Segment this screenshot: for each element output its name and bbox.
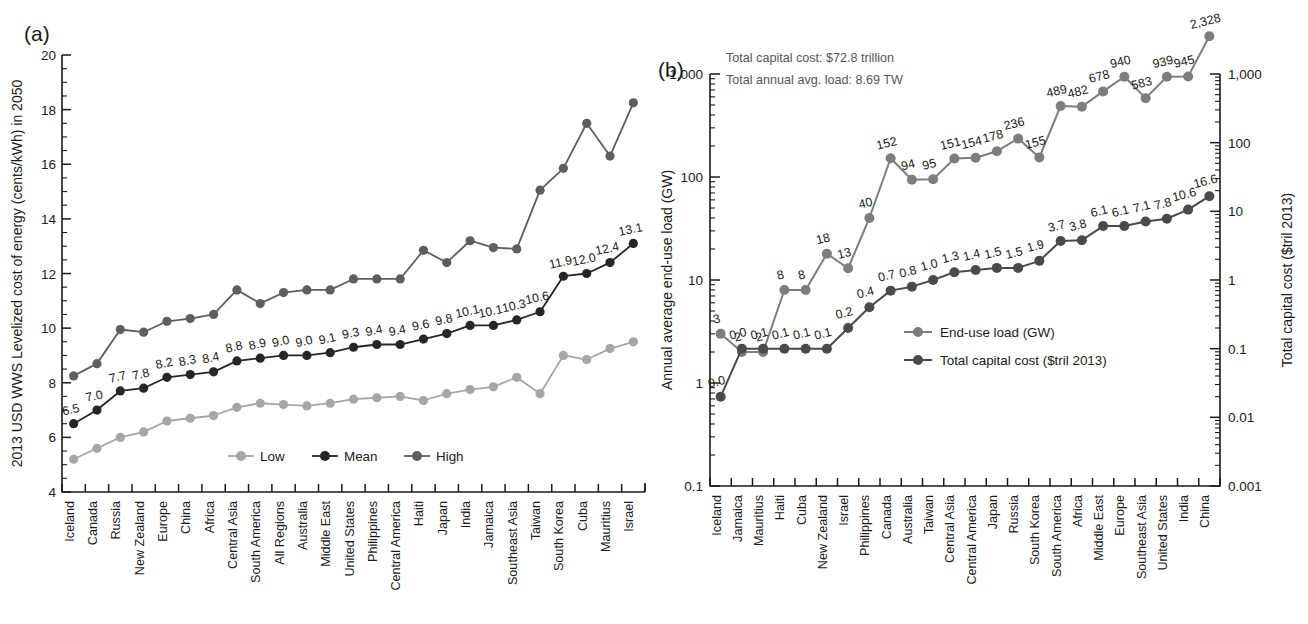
panel-b-tag: (b) <box>658 58 684 82</box>
data-point <box>232 356 241 365</box>
data-point <box>69 455 78 464</box>
y-tick-label-a: 16 <box>41 157 56 172</box>
data-point <box>605 151 614 160</box>
svg-text:High: High <box>436 449 464 464</box>
data-point <box>1013 134 1023 144</box>
panel-a-tag: (a) <box>24 22 50 46</box>
y-tick-label-b-right: 100 <box>1228 136 1251 151</box>
data-point <box>1204 191 1214 201</box>
data-point <box>186 414 195 423</box>
data-point <box>279 288 288 297</box>
svg-text:End-use load (GW): End-use load (GW) <box>940 325 1055 340</box>
data-point <box>1119 221 1129 231</box>
data-label-b: 678 <box>1087 67 1111 86</box>
data-point <box>256 354 265 363</box>
data-point <box>466 385 475 394</box>
data-label-b: 1.5 <box>983 244 1003 262</box>
data-label-a: 10.1 <box>454 302 481 321</box>
data-point <box>92 405 101 414</box>
panel-b: (b) 0.11101001,0000.0010.010.11101001,00… <box>654 0 1308 624</box>
x-category-label-a: Iceland <box>63 501 77 542</box>
data-point <box>1098 221 1108 231</box>
data-point <box>162 317 171 326</box>
x-category-label-b: India <box>1177 495 1191 522</box>
y-axis-title-b-right: Total capital cost ($tril 2013) <box>1279 193 1295 367</box>
y-tick-label-b-left: 1 <box>695 376 703 391</box>
data-point <box>162 373 171 382</box>
data-point <box>886 286 896 296</box>
data-point <box>907 282 917 292</box>
data-label-a: 8.9 <box>248 336 268 353</box>
data-point <box>349 343 358 352</box>
data-point <box>256 299 265 308</box>
annotation-b: Total capital cost: $72.8 trillion <box>726 51 894 65</box>
data-point <box>629 98 638 107</box>
data-point <box>186 370 195 379</box>
y-tick-label-a: 8 <box>48 376 56 391</box>
data-point <box>716 329 726 339</box>
data-label-b: 0.2 <box>834 304 854 322</box>
data-label-a: 9.6 <box>411 316 431 333</box>
data-point <box>419 334 428 343</box>
y-tick-label-b-left: 100 <box>680 170 703 185</box>
x-category-label-b: Africa <box>1071 495 1085 527</box>
data-point <box>928 275 938 285</box>
data-label-a: 9.0 <box>271 333 291 350</box>
data-label-b: 1.3 <box>940 248 960 266</box>
data-point <box>864 302 874 312</box>
data-point <box>1141 93 1151 103</box>
data-point <box>209 367 218 376</box>
y-tick-label-b-right: 0.1 <box>1228 342 1247 357</box>
data-point <box>992 146 1002 156</box>
data-point <box>1034 256 1044 266</box>
data-point <box>629 239 638 248</box>
data-point <box>69 371 78 380</box>
data-point <box>92 359 101 368</box>
data-point <box>139 328 148 337</box>
annotation-b: Total annual avg. load: 8.69 TW <box>726 73 903 87</box>
y-tick-label-a: 4 <box>48 485 56 500</box>
data-label-b: 1.5 <box>1004 244 1024 262</box>
data-point <box>302 285 311 294</box>
data-point <box>1056 236 1066 246</box>
data-label-a: 10.1 <box>477 302 504 321</box>
data-point <box>1077 102 1087 112</box>
data-label-a: 11.9 <box>548 253 574 272</box>
x-category-label-a: Taiwan <box>529 501 543 540</box>
x-category-label-a: Central Asia <box>226 501 240 569</box>
y-tick-label-a: 12 <box>41 267 56 282</box>
data-point <box>512 244 521 253</box>
data-point <box>466 236 475 245</box>
data-point <box>535 389 544 398</box>
x-category-label-b: Middle East <box>1092 495 1106 561</box>
x-category-label-b: New Zealand <box>816 495 830 569</box>
data-point <box>349 395 358 404</box>
data-point <box>116 325 125 334</box>
data-label-b: 95 <box>921 156 938 173</box>
data-point <box>716 392 726 402</box>
data-point <box>489 382 498 391</box>
panel-a-plot: 468101214161820IcelandCanadaRussiaNew Ze… <box>0 0 654 624</box>
x-category-label-a: Haiti <box>412 501 426 526</box>
data-point <box>302 401 311 410</box>
data-point <box>1183 205 1193 215</box>
data-point <box>605 344 614 353</box>
data-label-b: 0.8 <box>898 263 918 281</box>
data-point <box>605 258 614 267</box>
x-category-label-a: Cuba <box>576 501 590 531</box>
data-point <box>162 416 171 425</box>
data-point <box>512 373 521 382</box>
x-category-label-a: Central America <box>389 501 403 591</box>
data-label-b: 6.1 <box>1089 202 1109 220</box>
data-point <box>442 258 451 267</box>
data-label-a: 7.0 <box>84 387 104 404</box>
data-label-b: 8 <box>775 267 785 282</box>
data-label-b: 6.1 <box>1110 202 1130 220</box>
data-label-b: 3 <box>712 311 722 326</box>
data-point <box>1162 72 1172 82</box>
data-label-a: 7.7 <box>108 368 128 385</box>
data-point <box>535 307 544 316</box>
data-point <box>559 272 568 281</box>
data-point <box>1077 235 1087 245</box>
data-point <box>419 396 428 405</box>
